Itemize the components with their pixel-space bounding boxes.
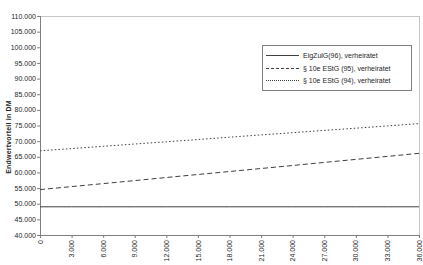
x-tick-label: 6.000 (100, 240, 107, 258)
y-tick-label: 105.000 (11, 28, 36, 35)
y-axis-title: Endwertvorteil in DM (5, 100, 12, 174)
chart: 110.000105.000100.00095.00090.00085.0008… (0, 0, 423, 265)
series-line-dashed (40, 153, 419, 189)
x-tick-label: 27.000 (321, 240, 328, 262)
legend-line-sample-solid (266, 55, 299, 56)
y-tick-label: 80.000 (15, 106, 37, 113)
y-tick-label: 95.000 (15, 60, 37, 67)
x-tick-label: 24.000 (289, 240, 296, 262)
legend-line-sample-dashed (266, 68, 299, 69)
y-tick-label: 75.000 (15, 122, 37, 129)
y-tick-label: 110.000 (11, 13, 36, 20)
series-line-dotted (40, 124, 419, 151)
legend-label: § 10e EStG (94), verheiratet (303, 77, 391, 84)
x-tick-label: 9.000 (131, 240, 138, 258)
x-tick-label: 21.000 (258, 240, 265, 262)
plot-area: 110.000105.000100.00095.00090.00085.0008… (0, 0, 423, 265)
legend-label: EigZulG(96), verheiratet (303, 52, 378, 59)
x-tick-label: 30.000 (352, 240, 359, 262)
legend-item: EigZulG(96), verheiratet (266, 52, 408, 59)
legend-item: § 10e EStG (95), verheiratet (266, 65, 408, 72)
x-tick-label: 12.000 (163, 240, 170, 262)
y-tick-label: 65.000 (15, 153, 37, 160)
legend-item: § 10e EStG (94), verheiratet (266, 77, 408, 84)
x-tick-label: 36.000 (416, 240, 423, 262)
y-tick-label: 40.000 (15, 232, 37, 239)
y-tick-label: 90.000 (15, 75, 37, 82)
y-tick-label: 50.000 (15, 200, 37, 207)
x-tick-label: 15.000 (195, 240, 202, 262)
y-tick-label: 100.000 (11, 44, 36, 51)
legend-label: § 10e EStG (95), verheiratet (303, 65, 391, 72)
x-tick-label: 0 (37, 240, 44, 244)
legend: EigZulG(96), verheiratet§ 10e EStG (95),… (262, 45, 412, 91)
x-tick-label: 18.000 (226, 240, 233, 262)
y-tick-label: 70.000 (15, 138, 37, 145)
x-tick-label: 33.000 (384, 240, 391, 262)
x-tick-label: 3.000 (68, 240, 75, 258)
y-tick-label: 45.000 (15, 216, 37, 223)
y-tick-label: 85.000 (15, 91, 37, 98)
legend-line-sample-dotted (266, 80, 299, 81)
y-tick-label: 60.000 (15, 169, 37, 176)
y-tick-label: 55.000 (15, 185, 37, 192)
